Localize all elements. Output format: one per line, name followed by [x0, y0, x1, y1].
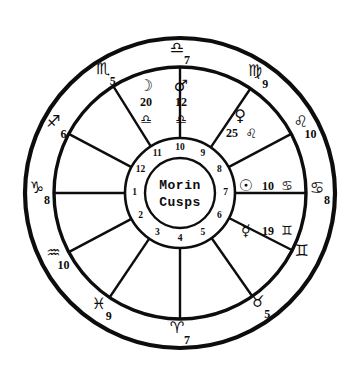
- zodiac-glyph-pisces: ♓: [92, 294, 106, 313]
- zodiac-degree-scorpio: 5: [110, 74, 116, 88]
- house-cusp-number-7: 7: [223, 187, 228, 197]
- wheel-svg: ♎7♍9♌10♋8♊♉5♈7♓9♒10♑8♐6♏5 ☽20♎♂12♎♀25♌☉1…: [0, 0, 360, 387]
- planet-sign-sun: ♋: [281, 178, 293, 193]
- planet-glyph-mercury: ☿: [241, 221, 251, 240]
- house-cusp-number-8: 8: [217, 164, 222, 174]
- planet-degree-mars: 12: [175, 95, 187, 109]
- house-cusp-line-5: [212, 238, 253, 296]
- zodiac-degree-pisces: 9: [106, 309, 112, 323]
- zodiac-degree-capricorn: 8: [44, 193, 50, 207]
- planet-sign-moon: ♎: [140, 112, 152, 127]
- zodiac-glyph-virgo: ♍: [248, 61, 262, 80]
- zodiac-degree-leo: 10: [305, 127, 317, 141]
- zodiac-glyph-cancer: ♋: [310, 178, 324, 197]
- planet-degree-venus: 25: [226, 126, 238, 140]
- zodiac-degree-virgo: 9: [262, 77, 268, 91]
- zodiac-glyph-gemini: ♊: [295, 241, 309, 260]
- house-cusp-line-2: [69, 219, 132, 252]
- planet-sign-venus: ♌: [245, 126, 257, 141]
- zodiac-glyph-scorpio: ♏: [96, 59, 110, 78]
- house-cusp-number-2: 2: [138, 210, 143, 220]
- planet-degree-moon: 20: [140, 95, 152, 109]
- house-cusp-number-5: 5: [200, 227, 205, 237]
- center-label-line2: Cusps: [159, 195, 201, 210]
- house-cusp-number-1: 1: [132, 187, 137, 197]
- zodiac-glyph-aries: ♈: [170, 318, 184, 337]
- center-label-line1: Morin: [159, 178, 201, 193]
- house-cusp-line-12: [69, 134, 132, 167]
- zodiac-sign-scorpio: ♏5: [96, 59, 116, 88]
- zodiac-degree-sagittarius: 6: [60, 127, 66, 141]
- planet-sign-mercury: ♊: [281, 223, 293, 238]
- zodiac-glyph-capricorn: ♑: [30, 178, 44, 197]
- house-cusp-number-6: 6: [217, 210, 222, 220]
- planet-venus: ♀25♌: [226, 106, 257, 141]
- zodiac-degree-aquarius: 10: [57, 258, 69, 272]
- planet-glyph-mars: ♂: [174, 76, 188, 95]
- zodiac-sign-capricorn: ♑8: [30, 178, 50, 207]
- planet-sign-mars: ♎: [175, 112, 187, 127]
- zodiac-degree-taurus: 5: [264, 307, 270, 321]
- house-cusp-line-3: [110, 239, 150, 298]
- zodiac-glyph-libra: ♎: [170, 38, 184, 57]
- astrology-wheel-diagram: ♎7♍9♌10♋8♊♉5♈7♓9♒10♑8♐6♏5 ☽20♎♂12♎♀25♌☉1…: [0, 0, 360, 387]
- zodiac-glyph-taurus: ♉: [250, 292, 264, 311]
- zodiac-sign-aries: ♈7: [170, 318, 190, 347]
- zodiac-degree-cancer: 8: [324, 193, 330, 207]
- house-cusp-number-11: 11: [153, 148, 162, 158]
- house-cusp-number-4: 4: [178, 233, 183, 243]
- planet-glyph-moon: ☽: [139, 76, 153, 95]
- zodiac-degree-libra: 7: [184, 53, 190, 67]
- planet-mercury: ☿19♊: [241, 221, 293, 240]
- zodiac-glyph-sagittarius: ♐: [46, 112, 60, 131]
- planet-moon: ☽20♎: [139, 76, 153, 127]
- planet-glyph-venus: ♀: [234, 106, 246, 125]
- zodiac-sign-taurus: ♉5: [250, 292, 270, 321]
- house-cusp-number-9: 9: [200, 148, 205, 158]
- zodiac-sign-sagittarius: ♐6: [46, 112, 66, 141]
- zodiac-sign-libra: ♎7: [170, 38, 190, 67]
- planet-mars: ♂12♎: [174, 76, 188, 127]
- planet-glyph-sun: ☉: [239, 176, 253, 195]
- house-cusp-number-3: 3: [155, 227, 160, 237]
- planet-layer: ☽20♎♂12♎♀25♌☉10♋☿19♊: [139, 76, 293, 240]
- zodiac-sign-cancer: ♋8: [310, 178, 330, 207]
- house-cusp-number-10: 10: [175, 142, 185, 152]
- planet-sun: ☉10♋: [239, 176, 293, 195]
- house-cusp-number-12: 12: [136, 164, 146, 174]
- planet-degree-mercury: 19: [262, 224, 274, 238]
- zodiac-degree-aries: 7: [184, 333, 190, 347]
- planet-degree-sun: 10: [262, 179, 274, 193]
- zodiac-sign-gemini: ♊: [295, 241, 309, 260]
